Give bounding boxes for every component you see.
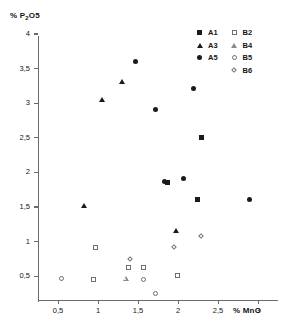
legend-entry-a1[interactable]: A1 [196, 28, 218, 37]
data-point-a3 [119, 79, 125, 84]
legend-entry-a3[interactable]: A3 [196, 41, 218, 50]
data-point-b6 [198, 234, 204, 240]
legend-column-b: B2B4B5B6 [231, 28, 253, 75]
legend-entry-b4[interactable]: B4 [231, 41, 253, 50]
marker-triangle-open [231, 43, 237, 48]
data-point-a5 [181, 176, 186, 181]
legend-entry-b6[interactable]: B6 [231, 66, 253, 75]
data-point-a5 [247, 197, 252, 202]
legend-swatch-circle-filled-icon [196, 54, 203, 61]
data-point-a5 [153, 107, 158, 112]
marker-triangle-filled [197, 43, 203, 48]
marker-square-open [232, 30, 237, 35]
legend-label: B6 [243, 66, 253, 75]
marker-square-filled [197, 30, 202, 35]
legend-swatch-square-open-icon [231, 29, 238, 36]
data-point-b2 [126, 265, 131, 270]
marker-circle-filled [197, 55, 202, 60]
legend-entry-b5[interactable]: B5 [231, 53, 253, 62]
legend-label: A5 [208, 53, 218, 62]
legend-label: B4 [243, 41, 253, 50]
data-point-b5 [153, 291, 158, 296]
marker-circle-open [232, 55, 237, 60]
data-point-b2 [175, 273, 180, 278]
legend-label: B5 [243, 53, 253, 62]
data-point-b6 [171, 245, 177, 251]
legend-swatch-square-filled-icon [196, 29, 203, 36]
legend-swatch-circle-open-icon [231, 54, 238, 61]
legend-label: A1 [208, 28, 218, 37]
data-point-a3 [99, 97, 105, 102]
data-point-b2 [91, 277, 96, 282]
data-point-b2 [93, 245, 98, 250]
legend-label: A3 [208, 41, 218, 50]
data-point-a5 [191, 86, 196, 91]
legend-swatch-triangle-filled-icon [196, 42, 203, 49]
data-point-b5 [59, 276, 64, 281]
legend: A1A3A5 B2B4B5B6 [196, 28, 252, 75]
scatter-chart: % P2O5 % MnO 0,511,522,533,540,511,522,5… [0, 0, 287, 331]
data-point-a1 [199, 135, 204, 140]
data-point-a3 [173, 228, 179, 233]
data-point-a3 [81, 203, 87, 208]
legend-entry-b2[interactable]: B2 [231, 28, 253, 37]
data-point-a5 [133, 59, 138, 64]
legend-swatch-triangle-open-icon [231, 42, 238, 49]
marker-diamond-open [231, 67, 237, 73]
data-point-b6 [127, 256, 133, 262]
data-point-b5 [141, 277, 146, 282]
legend-entry-a5[interactable]: A5 [196, 53, 218, 62]
data-point-a1 [195, 197, 200, 202]
legend-column-a: A1A3A5 [196, 28, 218, 75]
legend-label: B2 [243, 28, 253, 37]
data-point-b4 [123, 276, 129, 281]
legend-swatch-diamond-open-icon [231, 67, 238, 74]
data-point-b2 [141, 265, 146, 270]
